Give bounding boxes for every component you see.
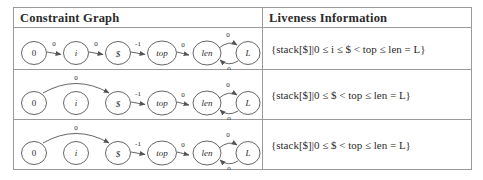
node-label: len [202, 148, 213, 158]
node-len: len [193, 141, 221, 165]
node-label: i [75, 98, 78, 108]
edge-label: 0 [181, 41, 185, 49]
node-label: len [202, 98, 213, 108]
node-top: top [148, 141, 177, 165]
edge-dollar-to-top: -1 [131, 40, 145, 55]
figure-table: Constraint Graph Liveness Information [13, 7, 472, 170]
edge-label: 0 [74, 74, 78, 82]
edge-dollar-to-top: -1 [131, 90, 145, 105]
table-row: 0 i $ top [14, 70, 471, 120]
edge-L-to-len: 0 [220, 60, 238, 70]
edge-dollar-to-top: -1 [131, 140, 145, 155]
node-label: top [156, 98, 168, 108]
edge-label: 0 [181, 91, 185, 99]
column-header-constraint-graph: Constraint Graph [20, 10, 119, 25]
node-label: $ [116, 99, 121, 109]
graph-cell-row-2: 0 i $ top [14, 70, 263, 119]
edge-label: 0 [227, 165, 231, 170]
node-0: 0 [22, 142, 47, 165]
constraint-graph-row-1: 0 i $ top [14, 28, 263, 69]
constraint-graph-table-figure: Constraint Graph Liveness Information [0, 0, 483, 180]
node-label: 0 [32, 98, 37, 108]
edge-top-to-len: 0 [177, 141, 189, 156]
edge-label: 0 [52, 40, 56, 48]
edge-0-to-dollar-arc: 0 [43, 124, 109, 143]
node-label: L [244, 98, 250, 108]
edge-label: 0 [226, 81, 230, 89]
node-L: L [236, 142, 260, 165]
liveness-expression: {stack[$]|0 ≤ i ≤ $ < top ≤ len = L} [271, 43, 425, 55]
node-len: len [193, 91, 221, 115]
edge-len-to-L: 0 [219, 81, 237, 98]
edge-0-to-dollar-arc: 0 [43, 74, 109, 93]
graph-cell-row-1: 0 i $ top [14, 28, 263, 69]
edge-label: 0 [74, 124, 78, 132]
node-label: top [156, 148, 168, 158]
node-0: 0 [22, 42, 47, 65]
edge-L-to-len: 0 [220, 110, 238, 120]
node-L: L [236, 92, 260, 115]
node-top: top [148, 91, 177, 115]
node-label: 0 [32, 148, 37, 158]
node-dollar: $ [106, 92, 131, 115]
edge-label: -1 [135, 140, 141, 148]
node-label: L [244, 148, 250, 158]
edge-label: 0 [226, 31, 230, 39]
node-i: i [64, 92, 89, 115]
table-header-row: Constraint Graph Liveness Information [14, 8, 471, 28]
node-label: $ [116, 149, 121, 159]
node-0: 0 [22, 92, 47, 115]
node-label: i [75, 148, 78, 158]
node-label: $ [116, 49, 121, 59]
liveness-cell-row-1: {stack[$]|0 ≤ i ≤ $ < top ≤ len = L} [263, 28, 471, 69]
node-i: i [64, 142, 89, 165]
table-row: 0 i $ top [14, 28, 471, 70]
edge-top-to-len: 0 [177, 41, 189, 56]
node-label: i [75, 48, 78, 58]
node-L: L [236, 42, 260, 65]
table-row: 0 i $ top [14, 120, 471, 170]
node-label: len [202, 48, 213, 58]
column-header-liveness-information: Liveness Information [269, 10, 387, 25]
node-label: L [244, 48, 250, 58]
edge-label: -1 [135, 40, 141, 48]
edge-label: -1 [135, 90, 141, 98]
node-len: len [193, 41, 221, 65]
node-i: i [64, 42, 89, 65]
edge-label: 0 [94, 40, 98, 48]
header-cell-constraint-graph: Constraint Graph [14, 8, 263, 27]
node-label: 0 [32, 48, 37, 58]
edge-L-to-len: 0 [220, 160, 238, 170]
edge-0-to-i: 0 [47, 40, 61, 55]
edge-label: 0 [181, 141, 185, 149]
edge-i-to-dollar: 0 [89, 40, 103, 55]
edge-len-to-L: 0 [219, 31, 237, 48]
node-label: top [156, 48, 168, 58]
header-cell-liveness-information: Liveness Information [263, 8, 471, 27]
constraint-graph-row-3: 0 i $ top [14, 120, 263, 170]
edge-len-to-L: 0 [219, 131, 237, 148]
liveness-expression: {stack[$]|0 ≤ $ < top ≤ len = L} [271, 139, 411, 151]
node-dollar: $ [106, 142, 131, 165]
liveness-cell-row-2: {stack[$]|0 ≤ $ < top ≤ len = L} [263, 70, 471, 119]
constraint-graph-row-2: 0 i $ top [14, 70, 263, 119]
liveness-expression: {stack[$]|0 ≤ $ < top ≤ len = L} [271, 89, 411, 101]
edge-top-to-len: 0 [177, 91, 189, 106]
node-dollar: $ [106, 42, 131, 65]
node-top: top [148, 41, 177, 65]
edge-label: 0 [226, 131, 230, 139]
liveness-cell-row-3: {stack[$]|0 ≤ $ < top ≤ len = L} [263, 120, 471, 170]
graph-cell-row-3: 0 i $ top [14, 120, 263, 170]
